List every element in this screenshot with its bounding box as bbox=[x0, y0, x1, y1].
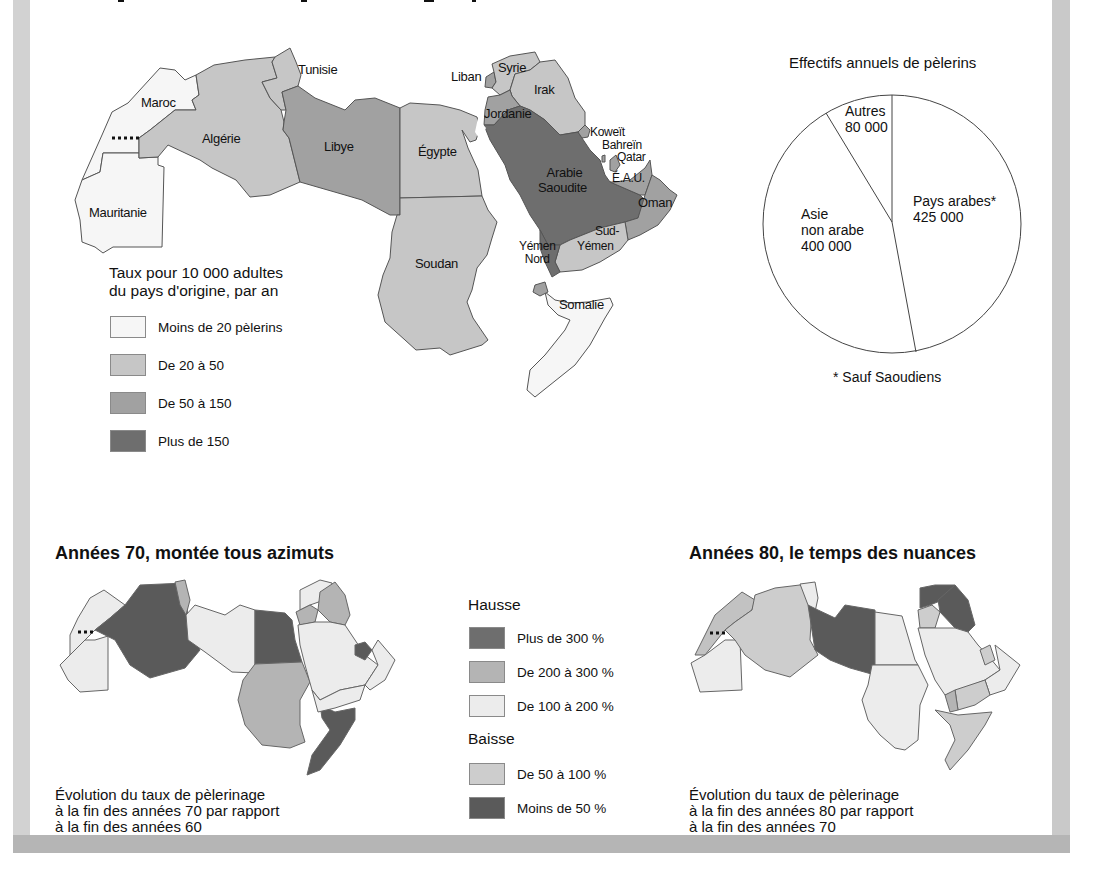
map80-caption-line3: à la fin des années 70 bbox=[689, 819, 913, 835]
map80-libye bbox=[808, 605, 875, 675]
map80-caption: Évolution du taux de pèlerinage à la fin… bbox=[689, 787, 913, 835]
map80 bbox=[0, 0, 1093, 890]
map80-caption-line2: à la fin des années 80 par rapport bbox=[689, 803, 913, 819]
map80-soudan bbox=[862, 665, 928, 750]
map80-egypte bbox=[875, 612, 918, 665]
map80-somalie bbox=[935, 710, 992, 770]
map80-jordanie bbox=[918, 605, 940, 628]
map80-caption-line1: Évolution du taux de pèlerinage bbox=[689, 787, 913, 803]
